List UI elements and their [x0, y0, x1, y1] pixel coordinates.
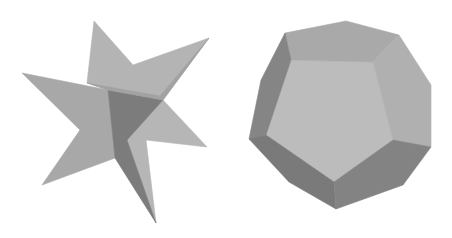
polyhedra-scene: [0, 0, 452, 238]
